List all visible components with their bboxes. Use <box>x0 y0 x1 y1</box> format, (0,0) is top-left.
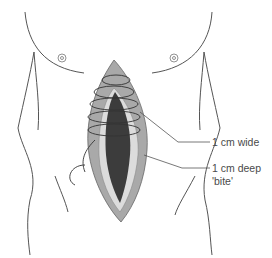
label-1cm-wide: 1 cm wide <box>212 136 259 148</box>
nipple-icons <box>58 54 178 62</box>
wound <box>88 60 147 222</box>
label-1cm-deep: 1 cm deep <box>212 162 261 174</box>
abdomen-diagram <box>0 0 272 258</box>
label-bite: 'bite' <box>212 175 233 187</box>
